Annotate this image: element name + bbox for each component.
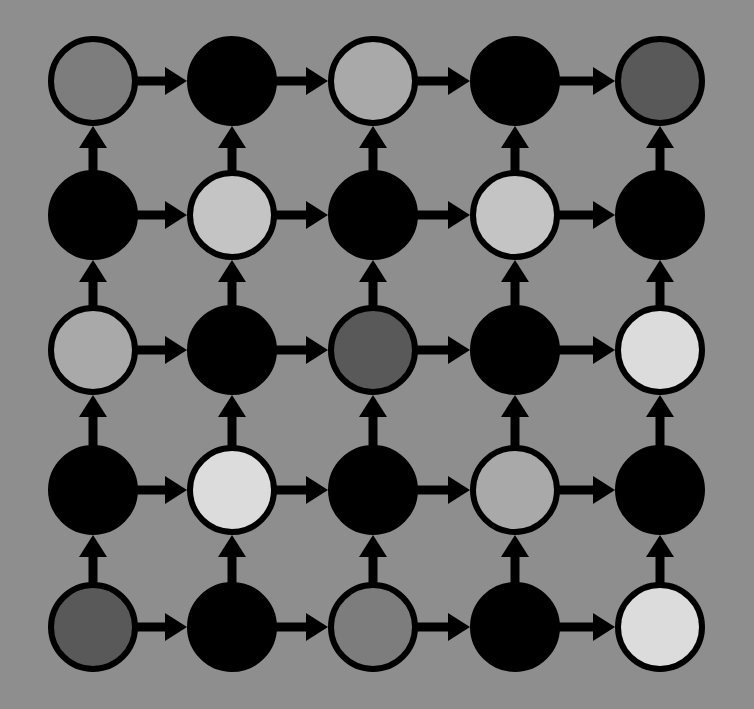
arrow-head-icon: [218, 535, 246, 557]
edge-r3c4-to-r2c4: [501, 260, 529, 307]
arrow-head-icon: [593, 613, 615, 641]
arrow-head-icon: [359, 260, 387, 282]
node-r1-c5-dark: [618, 39, 702, 123]
arrow-head-icon: [501, 126, 529, 148]
arrow-head-icon: [448, 476, 470, 504]
node-r4-c2-lightest: [190, 448, 274, 532]
arrow-head-icon: [79, 535, 107, 557]
node-r5-c2-black: [190, 585, 274, 669]
arrow-head-icon: [501, 535, 529, 557]
arrow-head-icon: [79, 260, 107, 282]
edge-r4c2-to-r3c2: [218, 395, 246, 447]
edge-r5c2-to-r4c2: [218, 535, 246, 584]
arrow-head-icon: [165, 201, 187, 229]
arrow-head-icon: [165, 67, 187, 95]
grid-diagram: [0, 0, 754, 709]
arrow-head-icon: [593, 476, 615, 504]
edge-r4c1-to-r3c1: [79, 395, 107, 447]
arrow-head-icon: [306, 613, 328, 641]
edge-r5c2-to-r5c3: [275, 613, 328, 641]
arrow-head-icon: [306, 201, 328, 229]
arrow-head-icon: [593, 336, 615, 364]
node-r5-c5-lightest: [618, 585, 702, 669]
edge-r2c2-to-r1c2: [218, 126, 246, 172]
node-r3-c3-dark: [331, 308, 415, 392]
arrow-head-icon: [165, 613, 187, 641]
edge-r3c4-to-r3c5: [558, 336, 615, 364]
edge-r2c2-to-r2c3: [275, 201, 328, 229]
arrow-head-icon: [306, 67, 328, 95]
arrow-head-icon: [165, 336, 187, 364]
edge-r2c1-to-r1c1: [79, 126, 107, 172]
node-r1-c1-mid: [51, 39, 135, 123]
node-r4-c3-black: [331, 448, 415, 532]
edge-r5c1-to-r4c1: [79, 535, 107, 584]
arrow-head-icon: [359, 395, 387, 417]
node-r3-c2-black: [190, 308, 274, 392]
arrow-head-icon: [593, 67, 615, 95]
node-r4-c1-black: [51, 448, 135, 532]
node-r2-c4-lighter: [473, 173, 557, 257]
arrow-head-icon: [448, 67, 470, 95]
node-r1-c4-black: [473, 39, 557, 123]
arrow-head-icon: [646, 126, 674, 148]
arrow-head-icon: [218, 126, 246, 148]
arrow-head-icon: [79, 395, 107, 417]
edge-r3c2-to-r3c3: [275, 336, 328, 364]
node-r2-c3-black: [331, 173, 415, 257]
edge-r1c1-to-r1c2: [136, 67, 187, 95]
arrow-head-icon: [79, 126, 107, 148]
arrow-head-icon: [306, 476, 328, 504]
node-r4-c4-light: [473, 448, 557, 532]
arrow-head-icon: [448, 613, 470, 641]
edge-r1c2-to-r1c3: [275, 67, 328, 95]
edge-r4c1-to-r4c2: [136, 476, 187, 504]
edge-r3c2-to-r2c2: [218, 260, 246, 307]
edge-r5c4-to-r5c5: [558, 613, 615, 641]
node-r4-c5-black: [618, 448, 702, 532]
arrow-head-icon: [306, 336, 328, 364]
arrow-head-icon: [448, 336, 470, 364]
edge-r4c3-to-r3c3: [359, 395, 387, 447]
node-r5-c1-dark: [51, 585, 135, 669]
edge-r4c3-to-r4c4: [416, 476, 470, 504]
edge-r1c3-to-r1c4: [416, 67, 470, 95]
arrow-head-icon: [448, 201, 470, 229]
edge-r2c5-to-r1c5: [646, 126, 674, 172]
edge-r2c4-to-r1c4: [501, 126, 529, 172]
edge-r2c4-to-r2c5: [558, 201, 615, 229]
arrow-head-icon: [501, 395, 529, 417]
node-r2-c5-black: [618, 173, 702, 257]
node-r3-c4-black: [473, 308, 557, 392]
edge-r5c4-to-r4c4: [501, 535, 529, 584]
edge-r4c2-to-r4c3: [275, 476, 328, 504]
arrow-head-icon: [646, 395, 674, 417]
edge-r3c1-to-r3c2: [136, 336, 187, 364]
node-r1-c3-light: [331, 39, 415, 123]
edge-r2c3-to-r1c3: [359, 126, 387, 172]
arrow-head-icon: [359, 126, 387, 148]
edge-r2c1-to-r2c2: [136, 201, 187, 229]
edge-r5c3-to-r5c4: [416, 613, 470, 641]
arrow-head-icon: [646, 535, 674, 557]
edge-r1c4-to-r1c5: [558, 67, 615, 95]
node-r2-c1-black: [51, 173, 135, 257]
edge-r3c1-to-r2c1: [79, 260, 107, 307]
arrow-head-icon: [218, 260, 246, 282]
arrow-head-icon: [359, 535, 387, 557]
edge-r5c3-to-r4c3: [359, 535, 387, 584]
edge-r2c3-to-r2c4: [416, 201, 470, 229]
node-r1-c2-black: [190, 39, 274, 123]
arrow-head-icon: [501, 260, 529, 282]
edge-r3c5-to-r2c5: [646, 260, 674, 307]
edge-r3c3-to-r2c3: [359, 260, 387, 307]
node-r3-c1-light: [51, 308, 135, 392]
edge-r4c4-to-r3c4: [501, 395, 529, 447]
arrow-head-icon: [165, 476, 187, 504]
arrow-head-icon: [218, 395, 246, 417]
edge-r4c5-to-r3c5: [646, 395, 674, 447]
arrow-head-icon: [593, 201, 615, 229]
node-r5-c4-black: [473, 585, 557, 669]
node-r3-c5-lightest: [618, 308, 702, 392]
node-r2-c2-lighter: [190, 173, 274, 257]
